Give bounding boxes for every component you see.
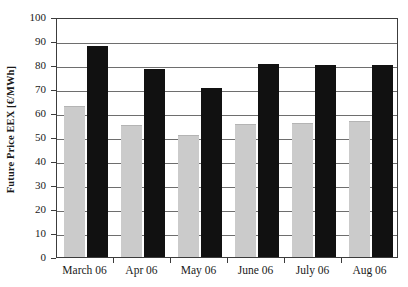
- bar: [372, 65, 393, 257]
- x-tick-label: May 06: [170, 264, 227, 276]
- plot-area: [56, 18, 398, 258]
- x-tick-label: June 06: [227, 264, 284, 276]
- y-tick-label: 90: [20, 36, 46, 47]
- y-tick-label: 100: [20, 12, 46, 23]
- x-tick-mark: [170, 258, 171, 263]
- y-tick-label: 70: [20, 84, 46, 95]
- x-tick-label: Apr 06: [113, 264, 170, 276]
- x-tick-mark: [113, 258, 114, 263]
- y-axis-title-text: Future Price EEX [€/MWh]: [6, 65, 17, 192]
- x-tick-mark: [284, 258, 285, 263]
- y-tick-label: 50: [20, 132, 46, 143]
- bar-chart: Future Price EEX [€/MWh] 010203040506070…: [0, 0, 408, 287]
- bar: [349, 121, 370, 257]
- y-tick-label: 40: [20, 156, 46, 167]
- x-tick-label: March 06: [56, 264, 113, 276]
- bar-group: [57, 19, 398, 257]
- y-tick-label: 60: [20, 108, 46, 119]
- x-tick-label: July 06: [284, 264, 341, 276]
- x-tick-mark: [227, 258, 228, 263]
- y-tick-label: 20: [20, 204, 46, 215]
- y-axis-title: Future Price EEX [€/MWh]: [0, 0, 22, 258]
- y-tick-label: 80: [20, 60, 46, 71]
- y-tick-label: 0: [20, 252, 46, 263]
- x-tick-label: Aug 06: [341, 264, 398, 276]
- y-tick-label: 30: [20, 180, 46, 191]
- x-tick-mark: [341, 258, 342, 263]
- y-tick-label: 10: [20, 228, 46, 239]
